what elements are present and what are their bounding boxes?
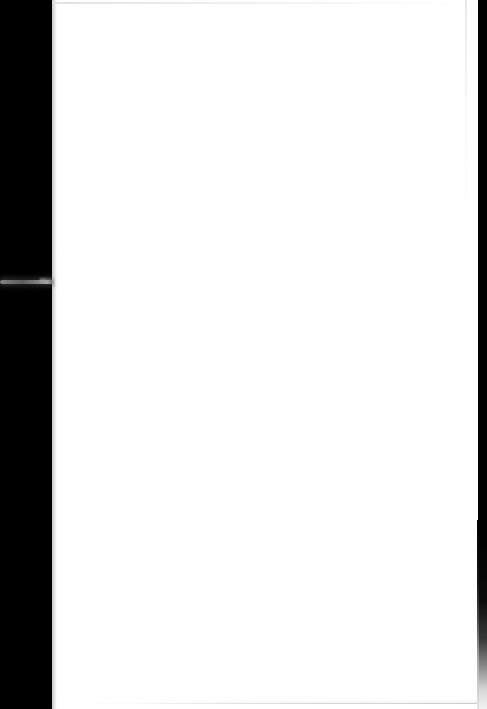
document-page-sheet xyxy=(52,0,478,709)
page-edge-nick xyxy=(52,283,55,287)
scanner-bezel-right-hairline xyxy=(477,520,479,709)
scanner-bezel-left xyxy=(0,0,52,709)
page-right-vertical-hairline xyxy=(465,0,467,300)
scanned-page-viewport xyxy=(0,0,487,709)
page-top-hairline xyxy=(52,2,478,4)
page-bottom-hairline xyxy=(52,703,478,704)
page-gutter-shadow xyxy=(52,0,57,709)
scanner-bezel-right xyxy=(478,0,487,709)
